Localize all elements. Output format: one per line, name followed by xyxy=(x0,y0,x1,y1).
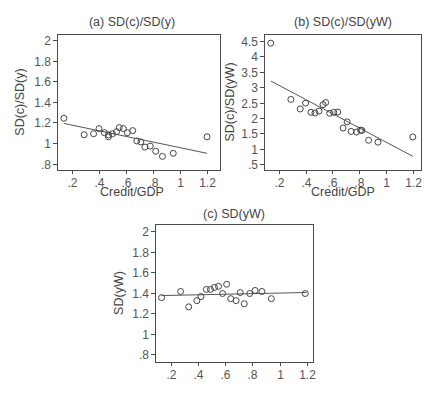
y-tick-label: 1.6 xyxy=(132,266,149,280)
x-tick-label: .8 xyxy=(247,368,257,382)
plot-frame xyxy=(265,35,422,171)
data-point xyxy=(186,304,192,310)
data-point xyxy=(288,96,294,102)
y-tick-label: 1 xyxy=(251,143,258,157)
figure: (a) SD(c)/SD(y) Credit/GDP SD(c)/SD(y) .… xyxy=(0,0,437,396)
x-tick-label: .2 xyxy=(67,176,77,190)
x-tick-label: 1 xyxy=(383,176,390,190)
panel-a-title: (a) SD(c)/SD(y) xyxy=(89,15,175,29)
data-point xyxy=(233,298,239,304)
data-point xyxy=(410,134,416,140)
panel-c-title: (c) SD(yW) xyxy=(203,207,265,221)
data-point xyxy=(91,131,97,137)
plot-frame xyxy=(156,225,314,363)
data-point xyxy=(241,301,247,307)
data-point xyxy=(220,291,226,297)
data-point xyxy=(170,150,176,156)
x-tick-label: .4 xyxy=(94,176,104,190)
y-tick-label: .5 xyxy=(248,158,258,172)
data-point xyxy=(81,132,87,138)
data-point xyxy=(204,134,210,140)
x-tick-label: .2 xyxy=(166,368,176,382)
data-point xyxy=(252,287,258,293)
y-tick-label: .8 xyxy=(41,158,51,172)
data-point xyxy=(335,109,341,115)
y-tick-label: 1 xyxy=(44,137,51,151)
y-tick-label: 1.2 xyxy=(132,307,149,321)
data-point xyxy=(268,296,274,302)
fit-line xyxy=(271,81,413,156)
x-tick-label: .6 xyxy=(121,176,131,190)
y-tick-label: 2.5 xyxy=(241,97,258,111)
x-tick-label: .4 xyxy=(301,176,311,190)
x-tick-label: .2 xyxy=(274,176,284,190)
panel-a-plot-area: .811.21.41.61.82.2.4.6.811.2 xyxy=(34,34,220,191)
data-point xyxy=(159,153,165,159)
data-point xyxy=(153,148,159,154)
y-tick-label: 1.4 xyxy=(34,96,51,110)
y-tick-label: 4.5 xyxy=(241,35,258,49)
data-point xyxy=(268,40,274,46)
panel-b-chart: (b) SD(c)/SD(yW) Credit/GDP SD(c)/SD(yW)… xyxy=(223,15,422,199)
panel-b-title: (b) SD(c)/SD(yW) xyxy=(294,15,392,29)
y-tick-label: 2 xyxy=(251,112,258,126)
data-point xyxy=(130,128,136,134)
data-point xyxy=(297,106,303,112)
panel-b-y-label: SD(c)/SD(yW) xyxy=(223,62,237,141)
y-tick-label: 2 xyxy=(142,225,149,239)
panel-b-plot-area: .511.522.533.544.5.2.4.6.811.2 xyxy=(241,35,422,191)
y-tick-label: 2 xyxy=(44,34,51,48)
x-tick-label: .8 xyxy=(148,176,158,190)
y-tick-label: 1.5 xyxy=(241,127,258,141)
data-point xyxy=(340,125,346,131)
x-tick-label: .4 xyxy=(193,368,203,382)
data-point xyxy=(303,100,309,106)
y-tick-label: 1.2 xyxy=(34,116,51,130)
y-tick-label: .8 xyxy=(139,348,149,362)
y-tick-label: 4 xyxy=(251,50,258,64)
data-point xyxy=(178,288,184,294)
y-tick-label: 1 xyxy=(142,328,149,342)
y-tick-label: 1.6 xyxy=(34,75,51,89)
x-tick-label: 1.2 xyxy=(299,368,316,382)
panel-c-plot-area: .811.21.41.61.82.2.4.6.811.2 xyxy=(132,225,316,383)
y-tick-label: 1.8 xyxy=(132,246,149,260)
panel-a-chart: (a) SD(c)/SD(y) Credit/GDP SD(c)/SD(y) .… xyxy=(13,15,221,199)
panel-c-y-label: SD(yW) xyxy=(112,271,126,315)
panel-b-x-label: Credit/GDP xyxy=(311,185,375,199)
x-tick-label: .8 xyxy=(354,176,364,190)
x-tick-label: 1 xyxy=(277,368,284,382)
data-point xyxy=(375,139,381,145)
panel-c-chart: (c) SD(yW) SD(yW) .811.21.41.61.82.2.4.6… xyxy=(112,207,316,382)
y-tick-label: 1.4 xyxy=(132,287,149,301)
data-point xyxy=(237,290,243,296)
panel-a-y-label: SD(c)/SD(y) xyxy=(13,68,27,135)
x-tick-label: 1.2 xyxy=(199,176,216,190)
plot-frame xyxy=(58,35,221,171)
data-point xyxy=(302,291,308,297)
x-tick-label: 1.2 xyxy=(405,176,422,190)
x-tick-label: 1 xyxy=(177,176,184,190)
x-tick-label: .6 xyxy=(327,176,337,190)
data-point xyxy=(216,283,222,289)
data-point xyxy=(61,115,67,121)
y-tick-label: 3 xyxy=(251,81,258,95)
data-point xyxy=(224,281,230,287)
data-point xyxy=(366,137,372,143)
y-tick-label: 3.5 xyxy=(241,66,258,80)
x-tick-label: .6 xyxy=(220,368,230,382)
y-tick-label: 1.8 xyxy=(34,55,51,69)
